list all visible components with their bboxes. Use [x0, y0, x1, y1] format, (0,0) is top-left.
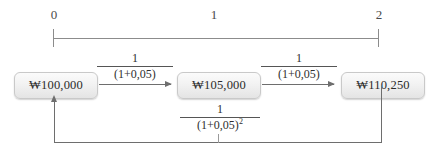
- return-path-left-segment: [54, 101, 55, 143]
- fraction-denominator-base: (1+0,05): [197, 118, 239, 132]
- return-path-right-segment: [381, 85, 382, 143]
- timeline-axis: [53, 38, 378, 39]
- arrow-period-0-to-1: [99, 84, 171, 85]
- value-box-period-1: ₩105,000: [177, 72, 261, 99]
- fraction-numerator: 1: [97, 52, 173, 66]
- fraction-denominator-exponent: 2: [239, 117, 243, 126]
- fraction-denominator: (1+0,05): [97, 66, 173, 81]
- timeline-tick-0: [53, 29, 54, 47]
- fraction-denominator: (1+0,05)2: [180, 117, 260, 132]
- return-path-arrowhead-icon: [51, 95, 57, 102]
- fraction-numerator: 1: [261, 52, 337, 66]
- timeline-label-2: 2: [369, 8, 389, 22]
- fraction-label-2-to-0: 1 (1+0,05)2: [180, 103, 260, 132]
- fraction-label-0-to-1: 1 (1+0,05): [97, 52, 173, 81]
- return-path-center-tick: [218, 134, 219, 143]
- fraction-label-1-to-2: 1 (1+0,05): [261, 52, 337, 81]
- arrow-period-1-to-2: [262, 84, 334, 85]
- value-box-period-2: ₩110,250: [341, 72, 425, 99]
- timeline-tick-2: [378, 29, 379, 47]
- fraction-denominator: (1+0,05): [261, 66, 337, 81]
- fraction-numerator: 1: [180, 103, 260, 117]
- timeline-label-1: 1: [204, 8, 224, 22]
- time-value-of-money-diagram: 0 1 2 ₩100,000 ₩105,000 ₩110,250 1 (1+0,…: [0, 0, 439, 156]
- timeline-label-0: 0: [44, 8, 64, 22]
